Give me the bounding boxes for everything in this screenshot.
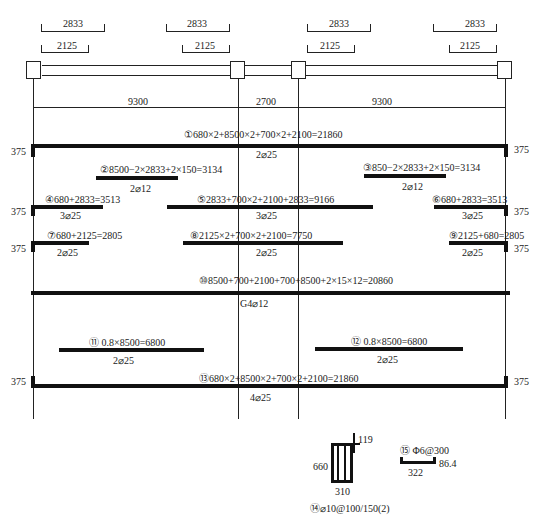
bar-8-spec: 2⌀25	[256, 247, 277, 258]
column-1	[26, 61, 41, 79]
bar-6-spec: 3⌀25	[462, 210, 483, 221]
bar-8-formula: ⑧2125×2+700×2+2100=7750	[190, 230, 312, 241]
bar-11-spec: 2⌀25	[113, 355, 134, 366]
bar-13-formula: ⑬680×2+8500×2+700×2+2100=21860	[199, 373, 358, 384]
bar-5-spec: 3⌀25	[256, 210, 277, 221]
span-label: 2700	[256, 96, 276, 107]
reinforcement-drawing: 2833 2125 2833 2125 2833 2125 2833 2125	[0, 0, 544, 528]
dim-label: 2125	[195, 40, 215, 51]
bar-7-formula: ⑦680+2125=2805	[47, 230, 122, 241]
column-4	[497, 61, 512, 79]
bar-5	[167, 205, 373, 209]
stirrup-hook-length: 119	[358, 434, 373, 445]
hook-length: 375	[514, 376, 529, 387]
hook-length: 375	[11, 206, 26, 217]
bar-13-spec: 4⌀25	[250, 392, 271, 403]
bar-4-spec: 3⌀25	[60, 210, 81, 221]
dim-label: 2125	[57, 40, 77, 51]
bar-2-spec: 2⌀12	[130, 183, 151, 194]
bar-9-formula: ⑨2125+680=2805	[449, 230, 524, 241]
dim-label: 2833	[465, 18, 485, 29]
beam-bottom-edge	[42, 75, 502, 76]
bar-4	[33, 205, 103, 209]
bar-11	[59, 348, 204, 352]
bar-1	[33, 144, 506, 148]
hook-length: 375	[514, 243, 529, 254]
bar-1-spec: 2⌀25	[256, 149, 277, 160]
span-label: 9300	[128, 96, 148, 107]
hook-right	[504, 144, 508, 157]
tie-spec: ⑮ Φ6@300	[400, 445, 449, 456]
bar-8	[183, 241, 343, 245]
bar-3-formula: ③850−2×2833+2×150=3134	[363, 162, 480, 173]
hook-length: 375	[11, 243, 26, 254]
hook-left	[31, 376, 35, 388]
span-label: 9300	[372, 96, 392, 107]
tie-hook: 86.4	[439, 458, 457, 469]
bar-1-formula: ①680×2+8500×2+700×2+2100=21860	[184, 129, 342, 140]
hook-right	[504, 376, 508, 388]
hook-length: 375	[11, 146, 26, 157]
column-2	[230, 61, 245, 79]
hook-left	[31, 205, 35, 216]
hook-left	[31, 241, 35, 252]
bar-2-formula: ②8500−2×2833+2×150=3134	[100, 164, 222, 175]
dim-label: 2833	[63, 18, 83, 29]
bar-3-spec: 2⌀12	[402, 181, 423, 192]
bar-5-formula: ⑤2833+700×2+2100+2833=9166	[197, 194, 334, 205]
dim-label: 2833	[329, 18, 349, 29]
bar-10-spec: G4⌀12	[240, 298, 268, 309]
dim-label: 2125	[460, 40, 480, 51]
bar-3	[364, 174, 446, 178]
bar-7	[33, 241, 89, 245]
hook-right	[504, 241, 508, 252]
tie-length: 322	[408, 467, 423, 478]
bar-11-formula: ⑪ 0.8×8500=6800	[89, 337, 165, 348]
dim-label: 2125	[320, 40, 340, 51]
column-3	[291, 61, 306, 79]
bar-6-formula: ⑥680+2833=3513	[432, 194, 507, 205]
bar-9-spec: 2⌀25	[462, 247, 483, 258]
bar-12	[315, 347, 463, 351]
hook-length: 375	[514, 144, 529, 155]
bar-12-spec: 2⌀25	[377, 354, 398, 365]
hook-right	[504, 205, 508, 216]
bar-9	[449, 241, 506, 245]
stirrup-width: 310	[335, 486, 350, 497]
bar-7-spec: 2⌀25	[57, 247, 78, 258]
stirrup-spec: ⑭⌀10@100/150(2)	[310, 503, 390, 514]
bar-2	[96, 176, 178, 180]
tie-bar	[401, 461, 435, 464]
bar-4-formula: ④680+2833=3513	[45, 194, 120, 205]
bar-13	[33, 384, 506, 388]
stirrup-outline	[331, 443, 353, 483]
bar-10	[31, 291, 510, 295]
hook-length: 375	[11, 376, 26, 387]
beam-top-edge	[42, 65, 502, 66]
hook-left	[31, 144, 35, 157]
bar-6	[434, 205, 506, 209]
bar-10-formula: ⑩8500+700+2100+700+8500+2×15×12=20860	[199, 275, 393, 286]
stirrup-height: 660	[313, 461, 328, 472]
hook-length: 375	[514, 206, 529, 217]
bar-12-formula: ⑫ 0.8×8500=6800	[351, 336, 427, 347]
span-dim-line	[33, 107, 505, 108]
dim-label: 2833	[187, 18, 207, 29]
